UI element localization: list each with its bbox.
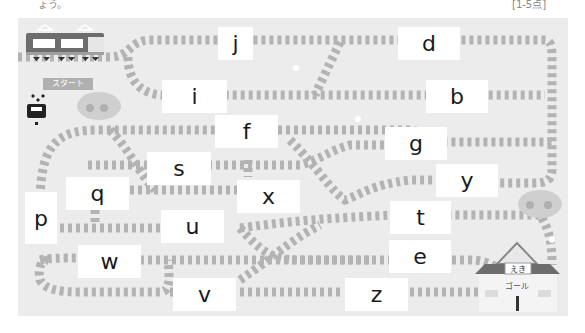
letter-box-e[interactable]: e <box>389 240 451 273</box>
letter-box-i[interactable]: i <box>162 80 227 113</box>
goal-label: ゴール <box>505 280 529 291</box>
letter-box-j[interactable]: j <box>218 27 253 60</box>
letter-box-u[interactable]: u <box>161 210 224 243</box>
railway-crossing-icon <box>27 94 46 125</box>
start-label: スタート <box>43 78 93 90</box>
letter-box-x[interactable]: x <box>237 180 300 213</box>
letter-box-d[interactable]: d <box>398 27 460 60</box>
bush-icon <box>518 190 562 218</box>
bush-icon <box>77 92 121 120</box>
letter-box-b[interactable]: b <box>426 80 488 113</box>
letter-box-y[interactable]: y <box>436 164 498 197</box>
letter-box-p[interactable]: p <box>25 192 57 244</box>
letter-box-z[interactable]: z <box>345 278 408 311</box>
letter-box-q[interactable]: q <box>66 177 129 210</box>
letter-box-t[interactable]: t <box>390 201 451 234</box>
letter-box-s[interactable]: s <box>147 152 211 185</box>
station-icon <box>475 243 560 312</box>
letter-box-f[interactable]: f <box>215 115 278 148</box>
letter-box-g[interactable]: g <box>385 127 447 160</box>
station-sign: えき <box>510 263 526 274</box>
letter-box-w[interactable]: w <box>78 245 141 278</box>
letter-box-v[interactable]: v <box>173 278 236 311</box>
